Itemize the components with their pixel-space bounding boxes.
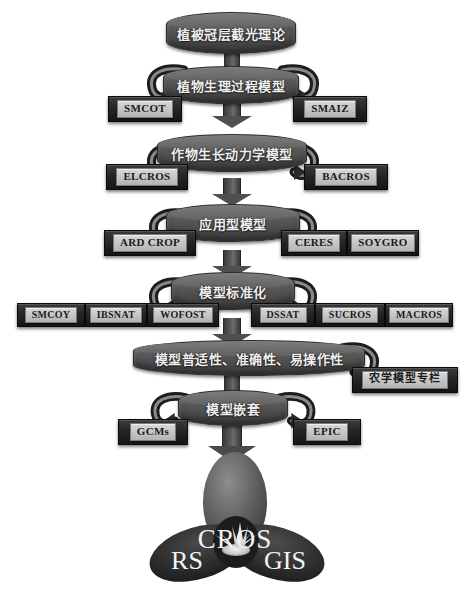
box-ceres[interactable]: CERES xyxy=(281,230,347,256)
box-label: ELCROS xyxy=(116,168,177,185)
diagram-canvas: 植被冠层截光理论 植物生理过程模型 SMCOT SMAIZ 作物生长动力学模型 … xyxy=(0,0,465,597)
box-macros[interactable]: MACROS xyxy=(385,303,453,327)
box-gcms[interactable]: GCMs xyxy=(118,419,188,445)
box-smcot[interactable]: SMCOT xyxy=(108,96,182,122)
node-label-level-5: 模型标准化 xyxy=(199,282,267,301)
node-label-level-1: 植被冠层截光理论 xyxy=(177,24,285,43)
box-dssat[interactable]: DSSAT xyxy=(251,303,315,327)
box-label: 农学模型专栏 xyxy=(362,371,448,388)
node-label-level-6: 模型普适性、准确性、易操作性 xyxy=(155,349,344,368)
box-label: DSSAT xyxy=(260,307,307,323)
node-level-7[interactable]: 模型嵌套 xyxy=(178,390,288,426)
box-label: SMCOY xyxy=(25,307,78,323)
box-label: CERES xyxy=(288,234,340,251)
box-smcoy[interactable]: SMCOY xyxy=(17,303,85,327)
box-smaiz[interactable]: SMAIZ xyxy=(293,96,367,122)
box-wofost[interactable]: WOFOST xyxy=(147,303,219,327)
box-label: ARD CROP xyxy=(113,234,187,251)
box-epic[interactable]: EPIC xyxy=(293,419,361,445)
box-bacros[interactable]: BACROS xyxy=(304,164,388,190)
box-label: SMAIZ xyxy=(304,100,356,117)
box-label: GCMs xyxy=(130,423,176,440)
logo-label-gis: GIS xyxy=(264,546,306,575)
box-label: WOFOST xyxy=(153,307,213,323)
logo-label-rs: RS xyxy=(171,546,203,575)
node-label-level-7: 模型嵌套 xyxy=(206,399,260,418)
node-label-level-4: 应用型模型 xyxy=(199,214,267,233)
box-label: EPIC xyxy=(306,423,347,440)
box-label: BACROS xyxy=(315,168,377,185)
box-label: MACROS xyxy=(389,307,449,323)
box-soygro[interactable]: SOYGRO xyxy=(347,230,419,256)
logo-label-cros: CROS xyxy=(198,524,273,554)
arrow-l2-l3 xyxy=(209,100,255,128)
box-sucros[interactable]: SUCROS xyxy=(315,303,385,327)
box-ibsnat[interactable]: IBSNAT xyxy=(85,303,147,327)
box-label: SOYGRO xyxy=(351,234,414,251)
node-level-2[interactable]: 植物生理过程模型 xyxy=(163,66,299,104)
box-label: IBSNAT xyxy=(90,307,142,323)
box-label: SMCOT xyxy=(117,100,173,117)
node-label-level-2: 植物生理过程模型 xyxy=(177,76,285,95)
box-elcros[interactable]: ELCROS xyxy=(106,164,188,190)
box-label: SUCROS xyxy=(322,307,378,323)
cros-rs-gis-logo: CROS RS GIS xyxy=(140,450,340,597)
arrow-l3-l4 xyxy=(209,178,255,206)
node-label-level-3: 作物生长动力学模型 xyxy=(171,144,293,163)
node-level-6[interactable]: 模型普适性、准确性、易操作性 xyxy=(133,340,365,376)
box-ard-crop[interactable]: ARD CROP xyxy=(104,230,196,256)
box-agronomy-model-column[interactable]: 农学模型专栏 xyxy=(352,367,458,393)
node-level-1[interactable]: 植被冠层截光理论 xyxy=(166,12,296,54)
